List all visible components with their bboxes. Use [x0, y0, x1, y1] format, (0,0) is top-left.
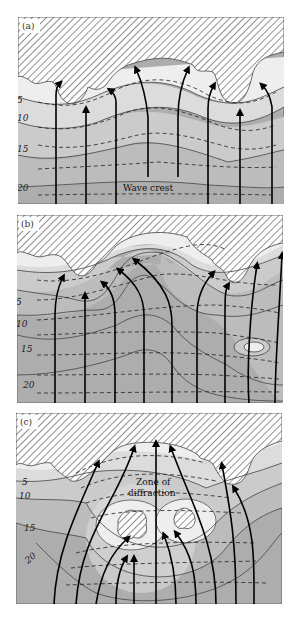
- wave-crest-label: Wave crest: [123, 183, 173, 193]
- panel-c: (c) 5 10 15 20 Zone of diffraction: [16, 413, 282, 604]
- panel-label-b: (b): [21, 219, 34, 229]
- depth-label-15: 15: [21, 344, 33, 354]
- panel-label-a: (a): [22, 21, 34, 31]
- depth-label-10: 10: [18, 113, 29, 123]
- island-hatch-left: [118, 510, 147, 539]
- panel-a: (a) 5 10 15 20 Wave crest: [18, 17, 284, 204]
- depth-label-5: 5: [18, 95, 23, 105]
- panel-label-c: (c): [20, 417, 32, 427]
- depth-label-15: 15: [24, 523, 36, 533]
- depth-label-10: 10: [17, 319, 28, 329]
- zone-of-diffraction-line1: Zone of: [136, 477, 171, 487]
- zone-of-diffraction-line2: diffraction: [128, 488, 176, 498]
- depth-label-15: 15: [18, 144, 29, 154]
- depth-label-5: 5: [17, 297, 22, 307]
- depth-label-5: 5: [22, 477, 28, 487]
- depth-label-10: 10: [19, 491, 31, 501]
- panel-b: (b) 5 10 15 20: [17, 215, 283, 403]
- island-hatch-right: [174, 508, 195, 528]
- depth-label-20: 20: [18, 183, 29, 193]
- depth-label-20: 20: [22, 380, 35, 390]
